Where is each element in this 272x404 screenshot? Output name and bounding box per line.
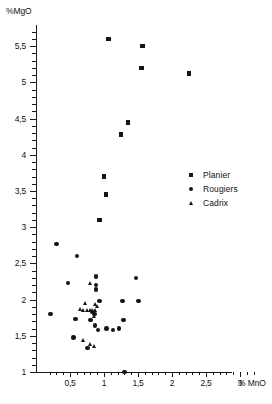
x-tick-minor (152, 372, 153, 375)
y-tick-minor (32, 314, 36, 315)
legend-item-planier[interactable]: Planier (186, 168, 238, 182)
y-tick-minor (32, 213, 36, 214)
data-point-rougiers (48, 312, 53, 317)
data-point-rougiers (75, 254, 80, 259)
data-point-rougiers (122, 370, 127, 375)
y-tick-minor (32, 68, 36, 69)
x-tick-minor (158, 372, 159, 375)
legend: PlanierRougiersCadrix (186, 168, 238, 210)
y-tick-minor (32, 307, 36, 308)
y-tick-minor (32, 285, 36, 286)
legend-label: Rougiers (203, 185, 238, 194)
x-axis-line (36, 372, 232, 373)
triangle-marker-icon (186, 201, 196, 205)
x-tick-label: 2,5 (194, 379, 218, 388)
x-tick-label: 1 (92, 379, 116, 388)
x-tick-label: 2 (160, 379, 184, 388)
x-tick-minor (186, 372, 187, 375)
y-tick-minor (32, 256, 36, 257)
data-point-cadrix (92, 314, 96, 318)
data-point-rougiers (134, 276, 139, 281)
y-tick-major (30, 227, 36, 228)
data-point-cadrix (81, 338, 85, 342)
y-tick-major (30, 372, 36, 373)
legend-label: Cadrix (203, 199, 228, 208)
x-tick-minor (111, 372, 112, 375)
x-axis-title: % MnO (238, 378, 266, 388)
y-tick-minor (32, 53, 36, 54)
y-tick-label: 1 (0, 368, 26, 377)
square-marker-icon (186, 173, 196, 177)
y-tick-label: 2,5 (0, 259, 26, 268)
x-tick-major (206, 372, 207, 377)
data-point-rougiers (97, 299, 102, 304)
y-tick-minor (32, 148, 36, 149)
x-tick-minor (233, 372, 234, 375)
data-point-planier (104, 192, 109, 197)
y-tick-minor (32, 242, 36, 243)
x-tick-major (172, 372, 173, 377)
data-point-planier (187, 71, 192, 76)
y-tick-minor (32, 358, 36, 359)
data-point-cadrix (88, 281, 92, 285)
x-tick-minor (199, 372, 200, 375)
y-tick-major (30, 191, 36, 192)
y-tick-minor (32, 140, 36, 141)
circle-marker-icon (186, 187, 196, 191)
y-tick-major (30, 263, 36, 264)
data-point-rougiers (121, 318, 126, 323)
y-tick-major (30, 300, 36, 301)
y-tick-minor (32, 61, 36, 62)
y-tick-label: 1,5 (0, 332, 26, 341)
data-point-rougiers (71, 335, 76, 340)
data-point-planier (119, 132, 124, 137)
y-tick-minor (32, 104, 36, 105)
y-tick-major (30, 336, 36, 337)
y-tick-minor (32, 329, 36, 330)
y-tick-minor (32, 162, 36, 163)
scatter-chart: %MgO 11,522,533,544,555,5 0,511,522,53 %… (0, 0, 272, 404)
data-point-rougiers (54, 242, 59, 247)
x-tick-minor (84, 372, 85, 375)
x-tick-major (138, 372, 139, 377)
x-tick-minor (254, 372, 255, 375)
y-tick-minor (32, 75, 36, 76)
data-point-rougiers (96, 328, 101, 333)
y-tick-minor (32, 126, 36, 127)
x-tick-minor (179, 372, 180, 375)
data-point-cadrix (95, 304, 99, 308)
x-tick-minor (247, 372, 248, 375)
data-point-rougiers (120, 299, 125, 304)
y-axis-line (36, 25, 37, 373)
legend-item-rougiers[interactable]: Rougiers (186, 182, 238, 196)
legend-label: Planier (203, 171, 230, 180)
y-tick-minor (32, 220, 36, 221)
y-axis-title: %MgO (6, 6, 32, 16)
data-point-planier (140, 44, 145, 49)
data-point-rougiers (111, 328, 116, 333)
x-tick-minor (77, 372, 78, 375)
y-tick-major (30, 155, 36, 156)
y-tick-minor (32, 97, 36, 98)
y-tick-major (30, 82, 36, 83)
y-tick-minor (32, 32, 36, 33)
x-tick-minor (118, 372, 119, 375)
data-point-rougiers (88, 318, 93, 323)
y-tick-minor (32, 350, 36, 351)
x-tick-minor (90, 372, 91, 375)
x-tick-label: 0,5 (58, 379, 82, 388)
x-tick-minor (131, 372, 132, 375)
y-tick-minor (32, 39, 36, 40)
y-tick-major (30, 46, 36, 47)
x-tick-minor (56, 372, 57, 375)
x-tick-major (240, 372, 241, 377)
y-tick-minor (32, 169, 36, 170)
y-tick-minor (32, 278, 36, 279)
legend-item-cadrix[interactable]: Cadrix (186, 196, 238, 210)
y-tick-label: 3,5 (0, 187, 26, 196)
x-tick-major (104, 372, 105, 377)
x-tick-minor (165, 372, 166, 375)
y-tick-major (30, 119, 36, 120)
x-tick-minor (220, 372, 221, 375)
y-tick-minor (32, 321, 36, 322)
